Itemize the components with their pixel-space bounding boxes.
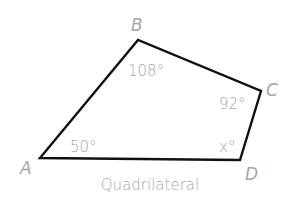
vertex-label-c: C [266,80,278,100]
angle-label-b: 108° [128,62,164,80]
vertex-label-b: B [131,15,143,35]
vertex-label-d: D [245,164,258,184]
angle-label-c: 92° [219,95,246,113]
diagram-caption: Quadrilateral [101,176,199,194]
angle-label-d: x° [219,138,235,156]
vertex-label-a: A [19,158,32,178]
quadrilateral-diagram: B C A D 108° 92° 50° x° Quadrilateral [0,0,301,215]
angle-label-a: 50° [70,138,97,156]
